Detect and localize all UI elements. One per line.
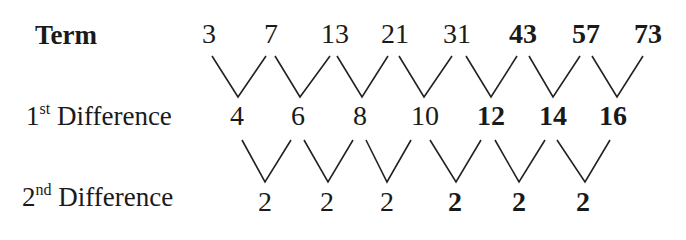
second-difference-value: 2: [380, 188, 394, 216]
connectors-term-to-first: [212, 56, 643, 97]
second-difference-value: 2: [320, 188, 334, 216]
second-difference-value-extrapolated: 2: [576, 188, 590, 216]
first-difference-value-extrapolated: 12: [477, 102, 505, 130]
first-difference-value: 4: [230, 102, 244, 130]
term-value: 21: [381, 20, 409, 48]
first-difference-value-extrapolated: 14: [539, 102, 567, 130]
term-value: 3: [202, 20, 216, 48]
first-difference-value-extrapolated: 16: [599, 102, 627, 130]
second-difference-value-extrapolated: 2: [512, 188, 526, 216]
first-difference-value: 8: [353, 102, 367, 130]
second-difference-value: 2: [258, 188, 272, 216]
second-difference-value-extrapolated: 2: [448, 188, 462, 216]
first-difference-value: 6: [291, 102, 305, 130]
term-value-extrapolated: 73: [634, 20, 662, 48]
term-value: 31: [443, 20, 471, 48]
term-value: 13: [321, 20, 349, 48]
term-value-extrapolated: 43: [509, 20, 537, 48]
term-value: 7: [264, 20, 278, 48]
first-difference-value: 10: [411, 102, 439, 130]
term-value-extrapolated: 57: [572, 20, 600, 48]
connectors-first-to-second: [242, 140, 610, 182]
